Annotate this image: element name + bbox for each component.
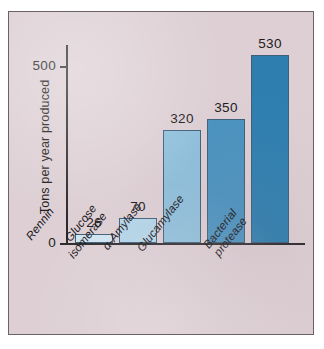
bar-value-alpha-amylase: 320 — [163, 111, 201, 126]
bar-bacterial-protease[interactable] — [251, 55, 289, 243]
bar-value-glucamylase: 350 — [207, 100, 245, 115]
bar-value-bacterial-protease: 530 — [251, 36, 289, 51]
y-tick-500 — [60, 66, 66, 68]
chart-figure: Tons per year produced 0 500 26 70 320 3… — [0, 0, 324, 349]
y-tick-label-500: 500 — [17, 58, 56, 73]
plot-area: Tons per year produced 0 500 26 70 320 3… — [9, 12, 314, 335]
y-axis-title: Tons per year produced — [38, 67, 52, 227]
y-axis-line — [66, 45, 68, 244]
bar-alpha-amylase[interactable] — [163, 130, 201, 243]
chart-panel: Tons per year produced 0 500 26 70 320 3… — [8, 11, 314, 335]
